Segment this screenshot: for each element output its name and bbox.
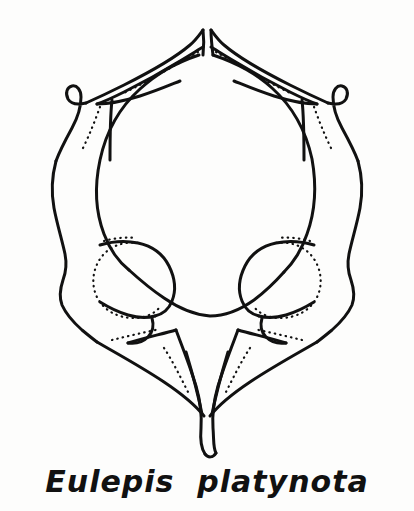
- right-upper-hidden-diagonal: [314, 107, 332, 150]
- transverse-process-left-tip: [56, 86, 86, 161]
- ventral-keel-tip: [205, 453, 216, 457]
- vertebra-line-drawing: [0, 0, 414, 511]
- transverse-process-right-tip: [328, 86, 358, 161]
- neural-canal-bottom-arc: [129, 270, 284, 316]
- articular-facet-right-hidden-arc: [254, 243, 321, 318]
- neural-spine-notch: [203, 30, 204, 55]
- right-outer-body-edge: [317, 161, 362, 342]
- neural-spine-right-inner-edge: [211, 47, 317, 104]
- solid-outline-group: [52, 30, 361, 457]
- neural-spine-left-prong-outline: [86, 30, 203, 103]
- left-lower-flange-edge: [97, 342, 204, 416]
- right-pedicle-inner-line: [302, 100, 304, 160]
- right-lower-flange-edge: [210, 342, 317, 416]
- figure-page: Eulepis platynota: [0, 0, 414, 511]
- articular-facet-left-hidden-arc: [93, 243, 160, 318]
- neural-spine-right-prong-outline: [211, 30, 328, 103]
- left-outer-body-edge: [52, 161, 97, 342]
- dotted-hidden-contour-group: [82, 52, 332, 392]
- neural-spine-left-inner-edge: [97, 47, 203, 104]
- neural-canal-left-arc: [97, 55, 199, 270]
- left-upper-hidden-diagonal: [82, 107, 100, 150]
